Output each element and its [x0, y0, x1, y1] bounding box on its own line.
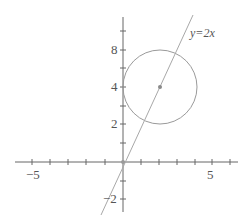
y-tick-label-2: 2	[111, 116, 118, 131]
plot-area: y=2x −5 5 8 4 2 −2	[0, 0, 247, 224]
x-tick-label-neg5: −5	[26, 167, 40, 182]
circle-center-point	[158, 85, 162, 89]
y-tick-label-neg2: −2	[103, 191, 117, 206]
y-tick-label-4: 4	[111, 79, 118, 94]
origin-point	[121, 160, 125, 164]
y-axis	[120, 17, 126, 212]
x-tick-label-5: 5	[207, 167, 214, 182]
y-tick-label-8: 8	[111, 42, 118, 57]
line-label: y=2x	[189, 26, 215, 40]
